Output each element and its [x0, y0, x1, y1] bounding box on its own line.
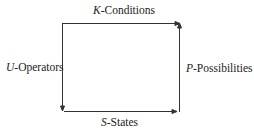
label-left-text: -Operators [14, 61, 63, 73]
label-bottom-text: -States [107, 116, 138, 128]
label-top-text: -Conditions [101, 4, 155, 16]
label-right-text: -Possibilities [193, 62, 252, 74]
label-bottom: S-States [101, 117, 138, 129]
label-right: P-Possibilities [186, 63, 252, 75]
arrowhead-left-icon [61, 106, 65, 111]
label-top: K-Conditions [93, 5, 155, 17]
label-right-var: P [186, 62, 193, 74]
label-top-var: K [93, 4, 101, 16]
label-left: U-Operators [6, 62, 64, 74]
arrowhead-bottom-icon [172, 110, 177, 114]
